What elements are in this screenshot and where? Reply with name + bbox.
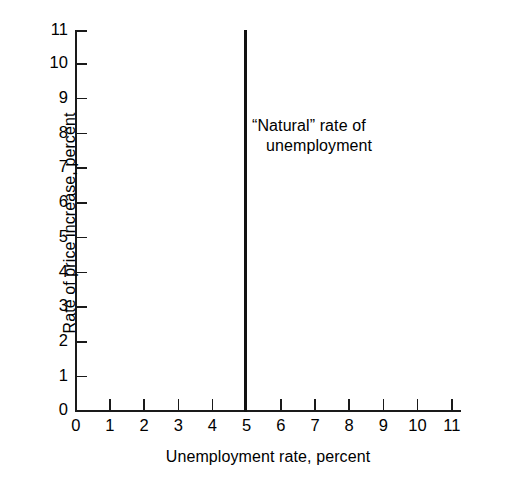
x-axis-tick-4 (212, 399, 214, 411)
natural-rate-vertical-line (244, 30, 247, 412)
x-axis-tick-8 (348, 399, 350, 411)
natural-rate-annotation-line-1: “Natural” rate of (252, 117, 366, 134)
x-axis-tick-11 (451, 399, 453, 411)
y-axis-tick-0 (76, 410, 87, 412)
x-axis-tick-9 (383, 399, 385, 411)
y-axis-tick-11 (76, 30, 87, 32)
x-axis-tick-0 (75, 399, 77, 411)
y-axis-tick-label-10: 10 (40, 54, 68, 71)
natural-rate-annotation: “Natural” rate of unemployment (252, 116, 372, 155)
natural-rate-annotation-line-2: unemployment (252, 136, 372, 156)
x-axis-tick-label-11: 11 (432, 416, 472, 434)
y-axis-tick-label-11: 11 (40, 21, 68, 38)
x-axis-tick-10 (417, 399, 419, 411)
x-axis-title: Unemployment rate, percent (75, 448, 461, 466)
x-axis-tick-7 (314, 399, 316, 411)
x-axis-line (75, 410, 461, 412)
y-axis-tick-10 (76, 63, 87, 65)
x-axis-tick-3 (178, 399, 180, 411)
x-axis-tick-6 (280, 399, 282, 411)
y-axis-title: Rate of price increase, percent (61, 73, 79, 373)
y-axis-tick-1 (76, 376, 87, 378)
x-axis-tick-1 (109, 399, 111, 411)
x-axis-tick-2 (143, 399, 145, 411)
phillips-curve-figure: 0 1 2 3 4 5 6 7 8 9 10 11 0 1 2 3 4 5 6 … (0, 0, 514, 488)
